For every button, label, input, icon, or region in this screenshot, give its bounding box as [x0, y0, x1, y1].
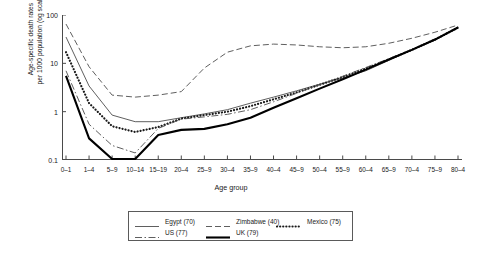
legend-label: Mexico (75)	[307, 218, 341, 225]
legend-label: Egypt (70)	[165, 218, 195, 225]
x-axis-tick-label: 10–14	[126, 166, 144, 173]
x-axis-title: Age group	[0, 183, 481, 192]
legend-label: UK (79)	[236, 229, 258, 236]
legend-row-1: Egypt (70)Zimbabwe (40)Mexico (75)	[134, 216, 347, 227]
x-axis-tick-label: 40–4	[266, 166, 280, 173]
legend-key	[205, 228, 231, 237]
x-axis-tick-label: 70–4	[405, 166, 419, 173]
x-axis-tick-label: 65–9	[382, 166, 396, 173]
y-axis-tick-label: 1	[54, 108, 58, 115]
x-axis-tick-label: 60–4	[359, 166, 373, 173]
legend-line-key	[205, 233, 231, 242]
chart-canvas	[62, 15, 462, 160]
x-axis-tick-label: 5–9	[107, 166, 118, 173]
plot-area: 1001010.1 0–11–45–910–1415–1920–425–930–…	[62, 15, 462, 160]
legend-key	[134, 217, 160, 226]
x-axis-tick-label: 80–4	[451, 166, 465, 173]
data-series-group	[66, 24, 458, 159]
y-axis-title: Age-specific death rates per 1000 popula…	[25, 0, 47, 119]
x-axis-tick-label: 0–1	[61, 166, 72, 173]
series-line	[66, 28, 458, 153]
legend-item: Mexico (75)	[276, 217, 347, 226]
chart-legend: Egypt (70)Zimbabwe (40)Mexico (75) US (7…	[128, 211, 353, 241]
legend-item: UK (79)	[205, 228, 276, 237]
legend-row-2: US (77)UK (79)	[134, 227, 347, 238]
x-axis-tick-label: 25–9	[197, 166, 211, 173]
legend-key	[205, 217, 231, 226]
series-line	[66, 28, 458, 132]
x-axis-tick-label: 30–4	[220, 166, 234, 173]
legend-label: US (77)	[165, 229, 187, 236]
x-axis-tick-label: 55–9	[336, 166, 350, 173]
y-axis-ticks	[63, 15, 67, 160]
chart-figure: Age-specific death rates per 1000 popula…	[0, 0, 481, 253]
legend-line-key	[134, 233, 160, 242]
x-axis-tick-label: 20–4	[174, 166, 188, 173]
series-line	[66, 24, 458, 97]
y-axis-title-line2: per 1000 population (og scale)	[36, 0, 45, 85]
y-axis-title-line1: Age-specific death rates	[27, 3, 36, 75]
legend-item: Zimbabwe (40)	[205, 217, 276, 226]
x-axis-tick-label: 50–4	[313, 166, 327, 173]
x-axis-tick-label: 15–19	[149, 166, 167, 173]
legend-key	[134, 228, 160, 237]
y-axis-tick-label: 0.1	[48, 157, 58, 164]
x-axis-tick-label: 35–9	[243, 166, 257, 173]
x-axis-tick-label: 45–9	[289, 166, 303, 173]
y-axis-tick-label: 100	[46, 12, 58, 19]
x-axis-tick-label: 1–4	[84, 166, 95, 173]
legend-item: US (77)	[134, 228, 205, 237]
axis-frame	[63, 15, 463, 160]
x-axis-tick-label: 75–9	[428, 166, 442, 173]
series-line	[66, 28, 458, 159]
legend-key	[276, 217, 302, 226]
y-axis-tick-label: 10	[50, 60, 58, 67]
legend-line-key	[276, 222, 302, 231]
x-axis-title-text: Age group	[214, 183, 247, 192]
legend-label: Zimbabwe (40)	[236, 218, 279, 225]
legend-item: Egypt (70)	[134, 217, 205, 226]
